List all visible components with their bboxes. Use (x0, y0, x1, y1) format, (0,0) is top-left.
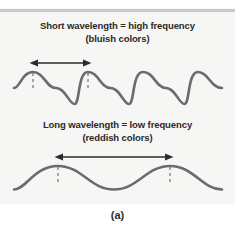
long-wavelength-wave-graphic (0, 150, 235, 204)
short-wavelength-wave-graphic (0, 52, 235, 110)
short-wavelength-waveform (14, 72, 222, 104)
short-wavelength-arrow-head-right (83, 59, 92, 66)
long-wavelength-caption-line-1: Long wavelength = low frequency (0, 119, 235, 132)
long-wavelength-caption-line-2: (reddish colors) (0, 132, 235, 145)
short-wavelength-arrow-head-left (30, 59, 39, 66)
panel-top-rule (0, 9, 235, 12)
long-wavelength-caption: Long wavelength = low frequency (reddish… (0, 119, 235, 144)
short-wavelength-caption: Short wavelength = high frequency (bluis… (0, 20, 235, 45)
figure-root: Short wavelength = high frequency (bluis… (0, 0, 235, 231)
figure-label: (a) (0, 209, 235, 221)
long-wave-backdrop (0, 150, 235, 204)
short-wavelength-caption-line-2: (bluish colors) (0, 33, 235, 46)
short-wavelength-caption-line-1: Short wavelength = high frequency (0, 20, 235, 33)
